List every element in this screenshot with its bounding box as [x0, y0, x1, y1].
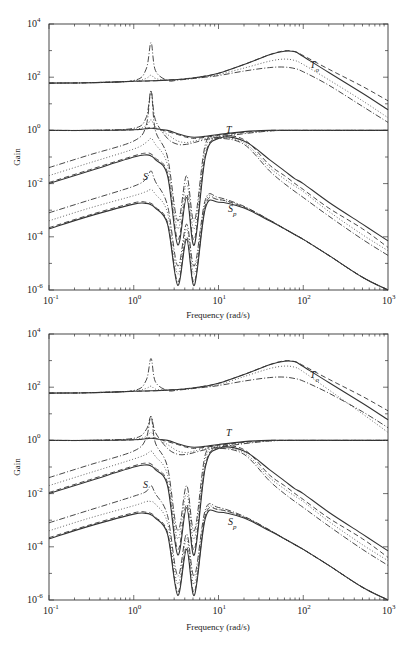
x-tick-label: 102 [297, 293, 311, 306]
curve-s-dotted [49, 138, 388, 251]
y-axis-label: Gain [12, 458, 22, 476]
curve-s-dash-dot [49, 416, 388, 565]
x-tick-label: 101 [213, 293, 227, 306]
x-axis-label: Frequency (rad/s) [186, 310, 250, 320]
curve-s-p-dash-dot [49, 486, 388, 600]
x-tick-label: 103 [382, 293, 396, 306]
y-tick-label: 102 [27, 379, 41, 392]
curve-s-dashed [49, 446, 388, 558]
y-tick-label: 10-4 [27, 539, 43, 552]
y-axis-label: Gain [12, 148, 22, 166]
curve-t-dotted [49, 432, 388, 452]
curve-s-p-dotted [49, 189, 388, 290]
curve-t-solid [49, 438, 388, 447]
y-tick-label: 10-2 [27, 176, 43, 189]
annotation-s: S [143, 479, 148, 490]
curve-s-solid [49, 447, 388, 555]
curve-t-dashed [49, 127, 388, 138]
bode-gain-figure: 10-110010110210310410210010-210-410-6Fre… [0, 0, 412, 645]
curve-s-dash-dot [49, 91, 388, 255]
bottom-gain-plot: 10-110010110210310410210010-210-410-6Fre… [12, 326, 396, 632]
y-tick-label: 10-4 [27, 229, 43, 242]
x-tick-label: 10-1 [43, 293, 59, 306]
x-tick-label: 101 [213, 603, 227, 616]
y-tick-label: 100 [27, 122, 41, 135]
y-tick-label: 100 [27, 432, 41, 445]
y-tick-label: 102 [27, 69, 41, 82]
curve-t-o-dotted [49, 366, 388, 432]
annotation-s: S [143, 171, 148, 182]
curve-s-p-dashed [49, 507, 388, 600]
plot-frame [49, 334, 388, 600]
curve-t-dashed [49, 437, 388, 448]
curve-s-solid [49, 137, 388, 245]
curve-t-o-solid [49, 361, 388, 420]
curve-s-p-dotted [49, 501, 388, 600]
curve-t-o-dash-dot [49, 358, 388, 427]
y-tick-label: 104 [27, 326, 41, 339]
x-tick-label: 102 [297, 603, 311, 616]
annotation-s-p: Sp [228, 516, 237, 531]
curve-s-dotted [49, 448, 388, 561]
curve-t-o-solid [49, 51, 388, 110]
curve-t-dash-dot [49, 91, 388, 145]
y-tick-label: 10-2 [27, 486, 43, 499]
annotation-t-o: To [310, 59, 320, 74]
curve-s-dashed [49, 136, 388, 248]
plot-frame [49, 24, 388, 290]
x-tick-label: 100 [128, 293, 142, 306]
x-axis-label: Frequency (rad/s) [186, 622, 250, 632]
top-gain-plot: 10-110010110210310410210010-210-410-6Fre… [12, 16, 396, 320]
curve-t-solid [49, 128, 388, 137]
curve-t-dash-dot [49, 416, 388, 454]
curve-s-p-dash-dot [49, 171, 388, 290]
curve-s-p-dashed [49, 197, 388, 290]
y-tick-label: 10-6 [27, 282, 43, 295]
y-tick-label: 10-6 [27, 592, 43, 605]
curve-t-o-dotted [49, 59, 388, 118]
x-tick-label: 103 [382, 603, 396, 616]
x-tick-label: 10-1 [43, 603, 59, 616]
y-tick-label: 104 [27, 16, 41, 29]
annotation-t-o: To [310, 369, 320, 384]
annotation-t: T [226, 427, 233, 438]
curve-t-dotted [49, 120, 388, 143]
x-tick-label: 100 [128, 603, 142, 616]
